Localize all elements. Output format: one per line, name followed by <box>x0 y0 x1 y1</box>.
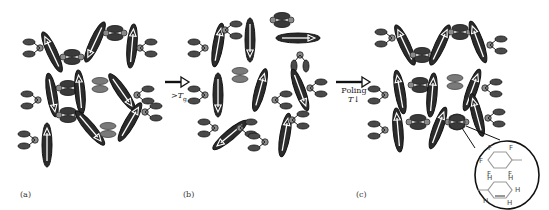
inset-atom-f3: F <box>479 157 483 165</box>
panel-label-c: (c) <box>356 190 367 199</box>
transition-arrow-heat <box>165 77 189 87</box>
inset-atom-f2: F <box>509 144 513 152</box>
inset-atom-h2: H <box>508 174 513 182</box>
inset-atom-h4: H <box>483 197 488 205</box>
poling-text: Poling <box>334 86 374 95</box>
chromophore-poling-figure: F F F F F H H H H H >Tg Poling T↓ (a) (b… <box>0 0 549 210</box>
pi-stacking-inset: F F F F F H H H H H <box>475 141 539 209</box>
panel-label-a: (a) <box>20 190 31 199</box>
panel-a-lattice <box>18 20 162 167</box>
temp-down-arrow: ↓ <box>353 95 360 104</box>
panel-b-lattice <box>188 13 327 158</box>
inset-atom-h1: H <box>487 174 492 182</box>
inset-atom-h3: H <box>515 186 520 194</box>
inset-atom-f1: F <box>488 144 492 152</box>
panel-c-lattice <box>368 20 507 153</box>
inset-atom-h5: H <box>507 199 512 207</box>
panel-label-b: (b) <box>183 190 194 199</box>
transition-label-heat: >Tg <box>165 91 193 102</box>
label-prefix: > <box>171 91 178 100</box>
transition-label-poling: Poling T↓ <box>334 86 374 104</box>
label-sub: g <box>183 95 187 102</box>
